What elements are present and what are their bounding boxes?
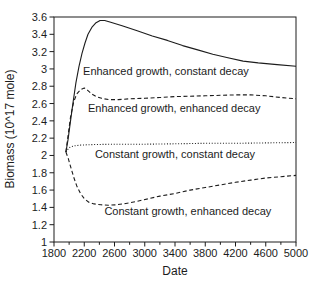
- y-tick-label: 1: [41, 236, 47, 248]
- y-tick-label: 2.6: [32, 98, 47, 110]
- x-tick-label: 2200: [72, 247, 96, 259]
- y-tick-label: 2: [41, 149, 47, 161]
- series-line-enhanced-growth-enhanced-decay: [66, 88, 296, 152]
- y-tick-label: 3.6: [32, 11, 47, 23]
- curve-label: Constant growth, constant decay: [95, 148, 256, 160]
- y-tick-label: 1.2: [32, 219, 47, 231]
- x-tick-label: 3800: [193, 247, 217, 259]
- y-tick-label: 3.4: [32, 28, 47, 40]
- x-tick-label: 2600: [102, 247, 126, 259]
- x-tick-label: 4200: [223, 247, 247, 259]
- y-tick-label: 2.2: [32, 132, 47, 144]
- y-tick-label: 3: [41, 63, 47, 75]
- y-tick-label: 2.8: [32, 80, 47, 92]
- y-tick-label: 2.4: [32, 115, 47, 127]
- curve-label: Enhanced growth, constant decay: [83, 65, 249, 77]
- x-axis-title: Date: [162, 264, 188, 278]
- x-tick-label: 3400: [163, 247, 187, 259]
- biomass-projection-figure: 18002200260030003400380042004600500011.2…: [0, 0, 319, 287]
- y-tick-label: 1.8: [32, 167, 47, 179]
- series-line-enhanced-growth-constant-decay: [66, 21, 296, 153]
- chart-canvas: 18002200260030003400380042004600500011.2…: [0, 0, 319, 287]
- x-tick-label: 4600: [254, 247, 278, 259]
- x-tick-label: 5000: [284, 247, 308, 259]
- x-tick-label: 3000: [133, 247, 157, 259]
- series-line-constant-growth-enhanced-decay: [66, 152, 296, 205]
- y-axis-title: Biomass (10^17 mole): [3, 69, 17, 188]
- y-tick-label: 3.2: [32, 46, 47, 58]
- curve-label: Constant growth, enhanced decay: [104, 205, 271, 217]
- x-tick-label: 1800: [42, 247, 66, 259]
- y-tick-label: 1.4: [32, 201, 47, 213]
- y-tick-label: 1.6: [32, 184, 47, 196]
- curve-label: Enhanced growth, enhanced decay: [88, 102, 261, 114]
- plot-layer: 18002200260030003400380042004600500011.2…: [32, 11, 309, 259]
